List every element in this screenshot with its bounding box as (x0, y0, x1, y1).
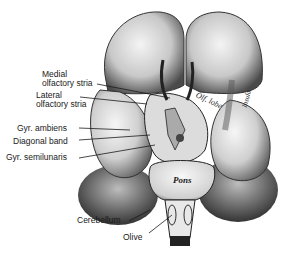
label-cerebellum: Cerebellum (77, 216, 120, 225)
label-olive: Olive (123, 233, 142, 242)
frontal-lobes (104, 12, 262, 94)
label-gyr-semilunaris: Gyr. semilunaris (6, 153, 67, 162)
label-medial-olfactory-stria: Medial olfactory stria (42, 70, 93, 88)
label-diagonal-band: Diagonal band (13, 137, 68, 146)
label-lateral-olfactory-stria: Lateral olfactory stria (36, 91, 87, 109)
label-gyr-ambiens: Gyr. ambiens (17, 124, 67, 133)
inline-label-pons: Pons (173, 175, 192, 185)
